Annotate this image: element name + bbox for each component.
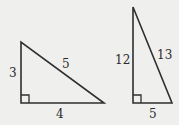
triangle-3-4-5: 3 5 4	[9, 42, 104, 121]
side-label-hypotenuse: 13	[157, 48, 172, 62]
side-label-horizontal: 4	[56, 107, 64, 121]
triangle-outline	[21, 42, 104, 103]
right-angle-marker	[133, 95, 141, 103]
right-triangles-diagram: 3 5 4 12 13 5	[0, 0, 179, 125]
side-label-hypotenuse: 5	[62, 57, 70, 71]
side-label-vertical: 3	[9, 66, 17, 80]
side-label-vertical: 12	[115, 53, 130, 67]
right-angle-marker	[21, 95, 29, 103]
side-label-horizontal: 5	[149, 107, 157, 121]
triangle-5-12-13: 12 13 5	[115, 7, 172, 121]
